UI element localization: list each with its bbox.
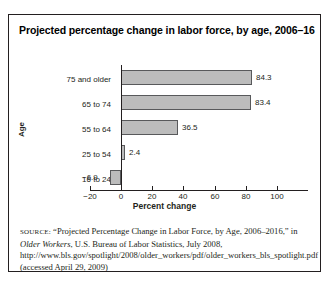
y-tick-label-25-to-54: 25 to 54 [23, 150, 111, 159]
x-tick-40 [183, 186, 184, 190]
bar-65-to-74 [121, 95, 251, 110]
bar-value-16-to-24: −6.9 [82, 173, 98, 182]
x-tick-label-0: 0 [106, 192, 136, 201]
chart-plot-area: Age 75 and older 65 to 74 55 to 64 25 to… [9, 55, 320, 217]
x-tick-label-40: 40 [168, 192, 198, 201]
x-tick-neg20 [90, 186, 91, 190]
bar-55-to-64 [121, 120, 178, 135]
x-axis-title: Percent change [9, 201, 320, 211]
page-title: Projected percentage change in labor for… [19, 24, 315, 36]
bar-value-25-to-54: 2.4 [129, 148, 140, 157]
x-tick-20 [152, 186, 153, 190]
bar-value-55-to-64: 36.5 [182, 123, 198, 132]
bar-75-and-older [121, 70, 252, 85]
y-tick-label-75-and-older: 75 and older [23, 75, 111, 84]
bar-value-75-and-older: 84.3 [256, 73, 272, 82]
x-tick-label-60: 60 [200, 192, 230, 201]
figure-container: Projected percentage change in labor for… [8, 14, 321, 272]
source-label: SOURCE: [20, 228, 51, 236]
source-text-part1: “Projected Percentage Change in Labor Fo… [51, 226, 298, 236]
source-note: SOURCE: “Projected Percentage Change in … [20, 226, 312, 273]
x-tick-label-100: 100 [262, 192, 292, 201]
zero-axis-line [121, 65, 122, 190]
x-tick-60 [215, 186, 216, 190]
y-tick-label-55-to-64: 55 to 64 [23, 125, 111, 134]
x-axis-line [90, 190, 308, 191]
bar-16-to-24 [110, 170, 121, 185]
bar-value-65-to-74: 83.4 [255, 98, 271, 107]
x-tick-100 [277, 186, 278, 190]
y-tick-label-65-to-74: 65 to 74 [23, 100, 111, 109]
x-tick-0 [121, 186, 122, 190]
x-tick-label-80: 80 [231, 192, 261, 201]
x-tick-80 [246, 186, 247, 190]
x-tick-label-20: 20 [137, 192, 167, 201]
source-publication-title: Older Workers [20, 239, 71, 249]
x-tick-label-neg20: −20 [75, 192, 105, 201]
